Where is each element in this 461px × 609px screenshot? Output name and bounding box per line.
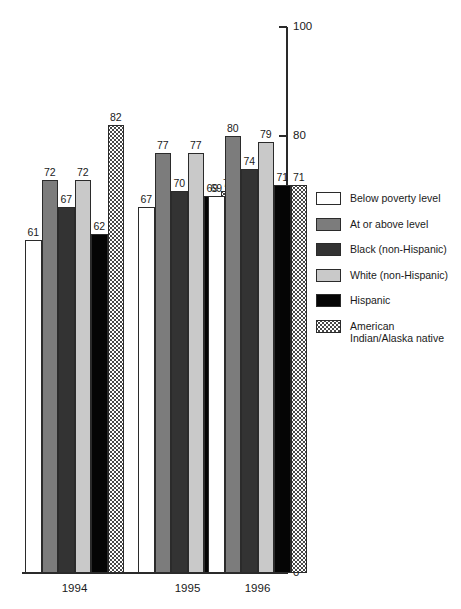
legend-item-american-indian-alaska-native: American Indian/Alaska native: [316, 320, 458, 345]
bar-value-1996-american-indian-alaska-native: 71: [287, 172, 312, 183]
legend-item-below-poverty-level: Below poverty level: [316, 192, 458, 205]
bar-value-1994-at-or-above-level: 72: [38, 167, 63, 178]
bar-value-1996-white-non-hispanic: 79: [254, 129, 279, 140]
dark-gray-swatch: [316, 243, 341, 256]
bar-1995-white-non-hispanic: [188, 153, 205, 573]
bar-1996-below-poverty-level: [208, 196, 225, 573]
chart-legend: Below poverty levelAt or above levelBlac…: [316, 192, 458, 357]
bar-value-1995-at-or-above-level: 77: [151, 140, 176, 151]
bar-1995-black-non-hispanic: [171, 191, 188, 573]
legend-label-black-non-hispanic: Black (non-Hispanic): [350, 243, 447, 256]
bar-1996-white-non-hispanic: [258, 142, 275, 573]
bar-1994-hispanic: [91, 234, 108, 573]
y-tick-label-100: 100: [293, 21, 312, 33]
bar-1994-below-poverty-level: [25, 240, 42, 573]
y-tick-100: [279, 26, 287, 28]
bar-1994-white-non-hispanic: [75, 180, 92, 573]
light-gray-swatch: [316, 269, 341, 282]
bar-value-1995-white-non-hispanic: 77: [184, 140, 209, 151]
bar-1995-at-or-above-level: [155, 153, 172, 573]
bar-chart: 020406080100 617267726282677770776970698…: [0, 0, 461, 609]
legend-item-white-non-hispanic: White (non-Hispanic): [316, 269, 458, 282]
x-axis-label-1996: 1996: [208, 582, 307, 594]
black-swatch: [316, 294, 341, 307]
bar-1996-american-indian-alaska-native: [291, 185, 308, 573]
legend-label-american-indian-alaska-native: American Indian/Alaska native: [350, 320, 458, 345]
legend-item-black-non-hispanic: Black (non-Hispanic): [316, 243, 458, 256]
bar-1994-american-indian-alaska-native: [108, 125, 125, 573]
legend-item-at-or-above-level: At or above level: [316, 218, 458, 231]
y-tick-label-80: 80: [293, 130, 306, 142]
bar-1994-black-non-hispanic: [58, 207, 75, 573]
bar-1996-black-non-hispanic: [241, 169, 258, 573]
legend-label-hispanic: Hispanic: [350, 294, 390, 307]
bar-1996-hispanic: [274, 185, 291, 573]
legend-item-hispanic: Hispanic: [316, 294, 458, 307]
legend-label-at-or-above-level: At or above level: [350, 218, 428, 231]
legend-label-below-poverty-level: Below poverty level: [350, 192, 440, 205]
bar-value-1994-white-non-hispanic: 72: [71, 167, 96, 178]
y-tick-80: [279, 135, 287, 137]
bar-1995-below-poverty-level: [138, 207, 155, 573]
stippled-swatch: [316, 320, 341, 333]
gray-swatch: [316, 218, 341, 231]
bar-1996-at-or-above-level: [225, 136, 242, 573]
plot-area: 020406080100 617267726282677770776970698…: [0, 0, 300, 609]
legend-label-white-non-hispanic: White (non-Hispanic): [350, 269, 448, 282]
bar-1994-at-or-above-level: [42, 180, 59, 573]
bar-value-1994-american-indian-alaska-native: 82: [104, 112, 129, 123]
x-axis-label-1994: 1994: [25, 582, 124, 594]
white-swatch: [316, 192, 341, 205]
bar-value-1996-at-or-above-level: 80: [221, 123, 246, 134]
